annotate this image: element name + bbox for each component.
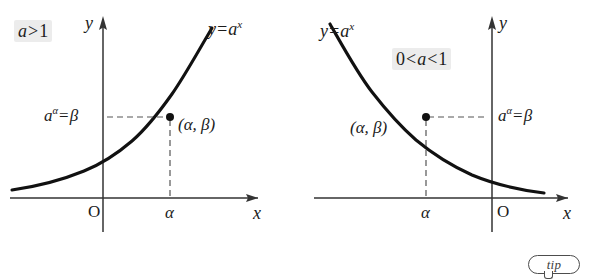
curve-increasing [12, 28, 212, 190]
curve-equation-label-right: y=ax [320, 22, 354, 40]
y-axis-label-left: y [85, 14, 93, 32]
y-axis-right [488, 16, 496, 232]
x-tick-label-right: α [421, 204, 430, 221]
x-axis-right [314, 194, 568, 202]
x-axis-left [10, 194, 258, 202]
panel-decreasing-exponential: y=ax 0<a<1 y (α, β) aα=β α O x [300, 0, 600, 240]
point-marker-right [422, 113, 430, 121]
point-label-left: (α, β) [178, 116, 215, 133]
curve-equation-label-left: y=ax [208, 20, 242, 38]
condition-label-right: 0<a<1 [392, 48, 451, 70]
x-axis-label-left: x [253, 204, 261, 222]
y-value-label-right: aα=β [498, 107, 532, 124]
origin-label-right: O [497, 203, 509, 220]
tip-badge[interactable]: tip [528, 255, 580, 274]
point-marker-left [166, 113, 174, 121]
tip-badge-label: tip [528, 255, 580, 274]
x-axis-label-right: x [563, 204, 571, 222]
origin-label-left: O [88, 203, 100, 220]
panel-increasing-exponential: a>1 y y=ax aα=β (α, β) O α x [0, 0, 300, 240]
y-value-label-left: aα=β [44, 107, 78, 124]
condition-label-left: a>1 [14, 20, 52, 42]
point-label-right: (α, β) [350, 119, 387, 136]
x-tick-label-left: α [165, 204, 174, 221]
y-axis-left [99, 16, 107, 232]
y-axis-label-right: y [499, 14, 507, 32]
